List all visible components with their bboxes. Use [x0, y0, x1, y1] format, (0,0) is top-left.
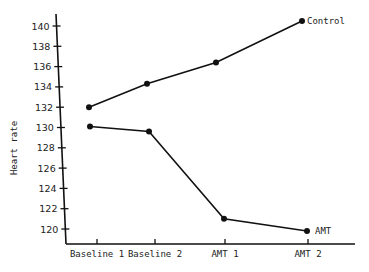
series-label-control: Control	[307, 16, 345, 26]
data-point	[299, 18, 305, 24]
x-tick-label: AMT 2	[294, 249, 321, 259]
data-point	[87, 123, 93, 129]
series-label-amt: AMT	[315, 226, 332, 236]
data-point	[213, 60, 219, 66]
data-point	[221, 216, 227, 222]
y-tick-label: 124	[38, 183, 56, 194]
x-tick-label: Baseline 2	[128, 249, 182, 259]
y-tick-label: 138	[32, 41, 50, 52]
y-tick-label: 128	[37, 142, 55, 153]
data-point	[304, 228, 310, 234]
series-control-line	[89, 21, 302, 107]
y-tick-label: 132	[35, 102, 53, 113]
y-tick-label: 136	[33, 61, 51, 72]
y-axis	[56, 14, 66, 244]
y-tick-label: 134	[34, 81, 52, 92]
data-points	[86, 18, 310, 234]
data-point	[86, 104, 92, 110]
y-tick-label: 126	[38, 163, 56, 174]
x-tick-label: AMT 1	[211, 249, 238, 259]
y-tick-label: 130	[36, 122, 54, 133]
x-tick-label: Baseline 1	[70, 249, 124, 259]
x-ticks: Baseline 1Baseline 2AMT 1AMT 2	[70, 239, 322, 259]
series-amt-line	[90, 126, 307, 231]
data-point	[146, 129, 152, 135]
y-tick-label: 122	[39, 203, 57, 214]
data-point	[144, 81, 150, 87]
y-tick-label: 140	[31, 21, 49, 32]
y-tick-label: 120	[40, 224, 58, 235]
line-chart: 120122124126128130132134136138140 Baseli…	[0, 0, 369, 272]
y-axis-label: Heart rate	[9, 121, 19, 175]
